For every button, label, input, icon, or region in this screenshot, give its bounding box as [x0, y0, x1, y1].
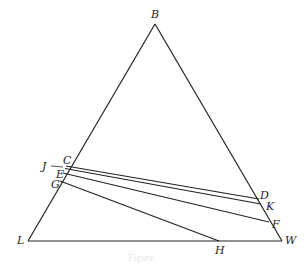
side-BL	[28, 24, 155, 241]
label-B: B	[150, 8, 159, 21]
side-BW	[155, 24, 282, 241]
segment-JK	[65, 169, 261, 205]
label-C: C	[63, 154, 72, 167]
triangle-diagram: B L W H C J E G D K F Figure	[0, 0, 308, 264]
figure-caption: Figure	[128, 252, 155, 263]
label-L: L	[16, 234, 24, 247]
segment-EF	[63, 173, 269, 222]
label-W: W	[285, 234, 298, 247]
segment-GH	[60, 181, 219, 241]
label-K: K	[265, 200, 275, 213]
J-leader	[51, 166, 63, 167]
label-F: F	[271, 218, 280, 231]
label-G: G	[51, 178, 60, 191]
label-J: J	[40, 160, 47, 173]
label-H: H	[214, 244, 225, 257]
